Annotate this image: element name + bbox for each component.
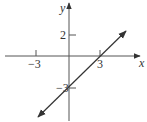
y-tick-label-neg3: −3 xyxy=(56,82,69,94)
y-axis-label: y xyxy=(60,2,65,14)
graph-line xyxy=(38,31,126,117)
y-tick-label-2: 2 xyxy=(60,29,66,41)
x-axis-label: x xyxy=(139,57,144,69)
x-tick-label-3: 3 xyxy=(97,58,103,70)
coordinate-plane xyxy=(0,0,147,122)
x-tick-label-neg3: −3 xyxy=(28,58,41,70)
